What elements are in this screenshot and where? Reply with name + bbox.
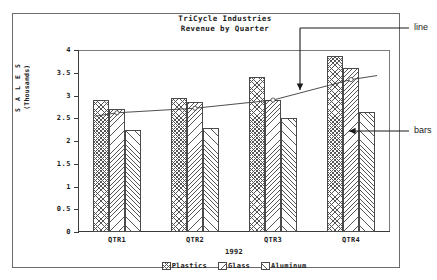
annotation-label-bars: bars [414, 125, 432, 135]
y-axis-title-line2: (Thousands) [23, 62, 32, 112]
y-axis-title: S A L E S (Thousands) [14, 62, 32, 112]
x-axis-title: 1992 [78, 248, 390, 256]
x-tick-label-qtr4: QTR4 [342, 236, 360, 244]
y-tick-label: 4 [66, 46, 71, 54]
legend-item-aluminum: Aluminum [261, 262, 306, 270]
plot-area: 00.511.522.533.54 QTR1QTR2QTR3QTR4 [78, 50, 390, 232]
x-tick-label-qtr2: QTR2 [186, 236, 204, 244]
y-tick-label: 3.5 [57, 69, 71, 77]
legend-swatch-glass [218, 262, 227, 270]
trend-marker-qtr2 [193, 106, 197, 110]
trend-line-series [78, 50, 390, 232]
y-tick-label: 1 [66, 183, 71, 191]
y-tick-label: 1.5 [57, 160, 71, 168]
chart-title: TriCycle Industries Revenue by Quarter [110, 14, 340, 34]
x-tick-label-qtr1: QTR1 [108, 236, 126, 244]
legend-item-plastics: Plastics [162, 262, 207, 270]
legend-label-aluminum: Aluminum [271, 262, 306, 270]
legend-item-glass: Glass [218, 262, 250, 270]
y-tick [74, 232, 79, 233]
legend-label-plastics: Plastics [172, 262, 207, 270]
trend-marker-qtr4 [349, 77, 353, 81]
legend-label-glass: Glass [228, 262, 250, 270]
y-tick-label: 2 [66, 137, 71, 145]
annotation-label-line: line [414, 22, 428, 32]
y-tick-label: 2.5 [57, 114, 71, 122]
chart-legend: PlasticsGlassAluminum [78, 262, 390, 270]
legend-swatch-plastics [162, 262, 171, 270]
y-tick-label: 0.5 [57, 205, 71, 213]
y-axis-title-line1: S A L E S [14, 62, 23, 112]
chart-screenshot: TriCycle Industries Revenue by Quarter S… [0, 0, 437, 280]
chart-title-line2: Revenue by Quarter [110, 24, 340, 34]
trend-marker-qtr3 [271, 98, 275, 102]
x-tick-label-qtr3: QTR3 [264, 236, 282, 244]
y-tick-label: 0 [66, 228, 71, 236]
y-tick-label: 3 [66, 92, 71, 100]
legend-swatch-aluminum [261, 262, 270, 270]
chart-title-line1: TriCycle Industries [110, 14, 340, 24]
trend-line-path [95, 76, 377, 117]
trend-marker-qtr1 [115, 111, 119, 115]
